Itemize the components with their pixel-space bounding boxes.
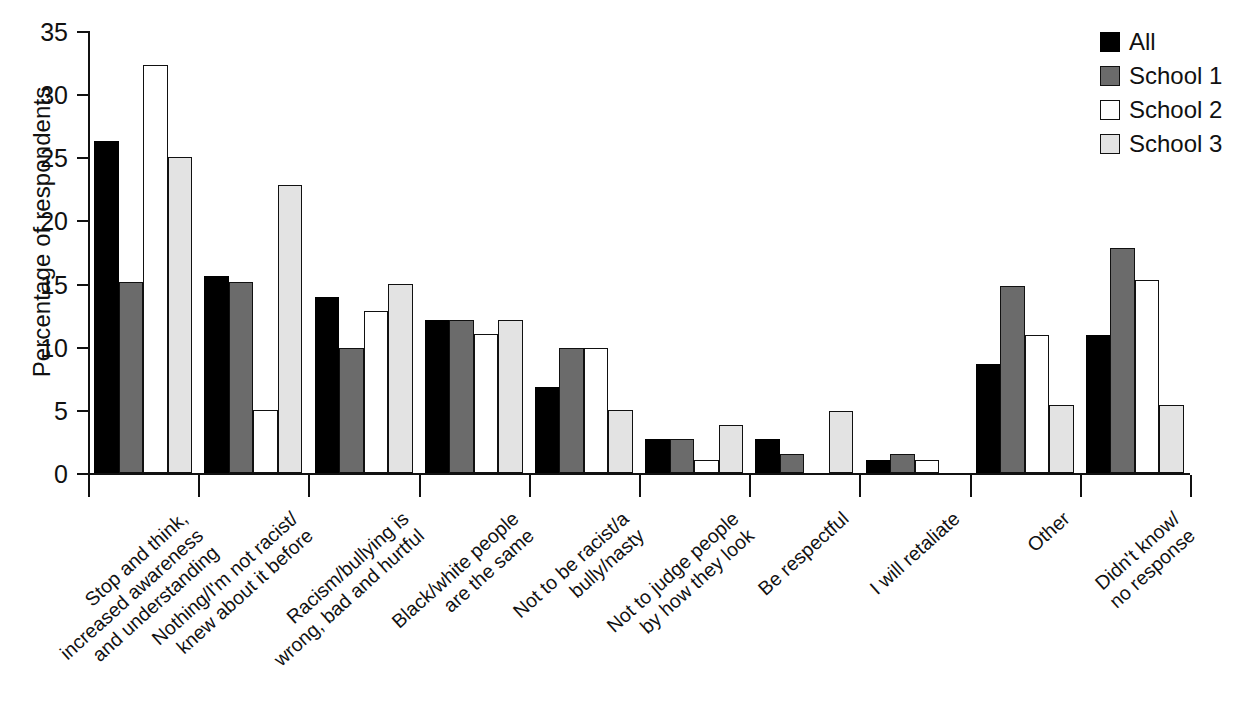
bar-chart: Percentage of respondents 05101520253035…: [0, 0, 1242, 709]
bar-school-2-group-4: [474, 334, 499, 473]
legend-label: School 2: [1129, 96, 1222, 124]
bar-all-group-7: [755, 439, 780, 473]
y-tick-label: 0: [0, 460, 68, 489]
bar-all-group-10: [1086, 335, 1111, 473]
bar-all-group-9: [976, 364, 1001, 473]
bar-all-group-8: [866, 460, 891, 473]
bar-school-1-group-10: [1110, 248, 1135, 473]
legend-item-school-1[interactable]: School 1: [1100, 60, 1222, 92]
x-tick-mark: [308, 475, 310, 497]
bar-school-2-group-2: [253, 410, 278, 473]
x-tick-mark: [88, 475, 90, 497]
bar-school-1-group-8: [890, 454, 915, 473]
legend-swatch-icon: [1100, 32, 1120, 52]
y-tick-mark: [77, 410, 88, 412]
y-tick-label: 30: [0, 81, 68, 110]
y-tick-label: 15: [0, 270, 68, 299]
y-tick-label: 20: [0, 207, 68, 236]
bar-school-1-group-9: [1000, 286, 1025, 473]
bar-all-group-2: [204, 276, 229, 473]
bar-school-1-group-6: [670, 439, 695, 473]
x-axis-label-7: Be respectful: [754, 507, 854, 600]
bar-school-2-group-3: [364, 311, 389, 473]
bar-school-3-group-3: [388, 284, 413, 473]
legend: AllSchool 1School 2School 3: [1100, 26, 1222, 162]
bar-all-group-3: [315, 297, 340, 473]
bar-school-2-group-6: [694, 460, 719, 473]
bar-all-group-5: [535, 387, 560, 473]
bar-school-1-group-7: [780, 454, 805, 473]
bar-school-1-group-3: [339, 348, 364, 473]
legend-item-all[interactable]: All: [1100, 26, 1222, 58]
bar-school-1-group-5: [559, 348, 584, 473]
bar-school-3-group-9: [1049, 405, 1074, 473]
bar-school-1-group-1: [119, 282, 144, 473]
bar-school-3-group-7: [829, 411, 854, 473]
y-tick-mark: [77, 31, 88, 33]
bar-school-3-group-6: [719, 425, 744, 473]
x-tick-mark: [419, 475, 421, 497]
bar-school-2-group-8: [915, 460, 940, 473]
bar-school-3-group-10: [1159, 405, 1184, 473]
bar-school-3-group-4: [498, 320, 523, 473]
y-tick-label: 25: [0, 144, 68, 173]
bar-school-1-group-4: [449, 320, 474, 473]
y-tick-label: 35: [0, 18, 68, 47]
y-tick-mark: [77, 473, 88, 475]
x-tick-mark: [198, 475, 200, 497]
bar-school-2-group-1: [143, 65, 168, 473]
y-tick-mark: [77, 284, 88, 286]
bar-school-1-group-2: [229, 282, 254, 473]
bar-school-2-group-9: [1025, 335, 1050, 473]
x-tick-mark: [859, 475, 861, 497]
x-axis-label-8: I will retaliate: [865, 507, 964, 600]
legend-label: School 3: [1129, 130, 1222, 158]
x-tick-mark: [529, 475, 531, 497]
y-tick-mark: [77, 94, 88, 96]
bar-school-3-group-1: [168, 157, 193, 473]
x-axis-label-10: Didn't know/ no response: [1089, 507, 1200, 613]
legend-item-school-3[interactable]: School 3: [1100, 128, 1222, 160]
legend-swatch-icon: [1100, 100, 1120, 120]
bar-all-group-1: [94, 141, 119, 473]
y-tick-mark: [77, 220, 88, 222]
bar-all-group-4: [425, 320, 450, 473]
x-tick-mark: [639, 475, 641, 497]
legend-swatch-icon: [1100, 66, 1120, 86]
x-tick-mark: [1080, 475, 1082, 497]
bar-school-2-group-10: [1135, 280, 1160, 473]
x-tick-mark: [970, 475, 972, 497]
legend-swatch-icon: [1100, 134, 1120, 154]
x-tick-mark: [1190, 475, 1192, 497]
bar-school-3-group-5: [608, 410, 633, 473]
bar-all-group-6: [645, 439, 670, 473]
legend-label: School 1: [1129, 62, 1222, 90]
bar-school-3-group-2: [278, 185, 303, 473]
legend-label: All: [1129, 28, 1156, 56]
plot-area: [88, 31, 1190, 473]
y-tick-label: 10: [0, 333, 68, 362]
y-tick-mark: [77, 157, 88, 159]
x-axis-label-9: Other: [1022, 507, 1074, 557]
x-tick-mark: [749, 475, 751, 497]
y-tick-mark: [77, 347, 88, 349]
bars-layer: [88, 31, 1190, 473]
bar-school-2-group-5: [584, 348, 609, 473]
legend-item-school-2[interactable]: School 2: [1100, 94, 1222, 126]
y-tick-label: 5: [0, 396, 68, 425]
